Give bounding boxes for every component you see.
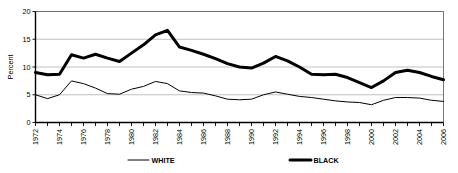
x-axis-label-1972: 1972 xyxy=(31,129,40,145)
x-axis-label-1984: 1984 xyxy=(175,129,184,145)
chart-canvas: 05101520 1972197419761978198019821984198… xyxy=(0,0,458,173)
y-axis-label-10: 10 xyxy=(23,63,31,72)
y-axis-label-0: 0 xyxy=(27,118,31,127)
x-axis-label-1988: 1988 xyxy=(223,129,232,145)
x-axis-label-1978: 1978 xyxy=(103,129,112,145)
y-axis-title-text: Percent xyxy=(6,55,15,80)
y-axis-title: Percent xyxy=(6,55,15,80)
y-axis-label-15: 15 xyxy=(23,35,31,44)
legend-label-white: WHITE xyxy=(152,156,175,165)
x-axis-label-1982: 1982 xyxy=(151,129,160,145)
x-axis-label-1986: 1986 xyxy=(199,129,208,145)
unemployment-rate-line-chart: 05101520 1972197419761978198019821984198… xyxy=(0,0,458,173)
x-axis-label-2002: 2002 xyxy=(391,129,400,145)
legend-label-black: BLACK xyxy=(314,156,340,165)
x-axis-label-1976: 1976 xyxy=(79,129,88,145)
x-axis-label-1974: 1974 xyxy=(55,129,64,145)
x-axis-label-1992: 1992 xyxy=(271,129,280,145)
y-axis-label-20: 20 xyxy=(23,7,31,16)
x-axis-label-1994: 1994 xyxy=(295,129,304,145)
plot-background xyxy=(0,0,458,173)
x-axis-label-2006: 2006 xyxy=(439,129,448,145)
x-axis-label-1998: 1998 xyxy=(343,129,352,145)
x-axis-label-1990: 1990 xyxy=(247,129,256,145)
y-axis-label-5: 5 xyxy=(27,90,31,99)
x-axis-label-1980: 1980 xyxy=(127,129,136,145)
x-axis-label-1996: 1996 xyxy=(319,129,328,145)
x-axis-label-2000: 2000 xyxy=(367,129,376,145)
x-axis-label-2004: 2004 xyxy=(415,129,424,145)
